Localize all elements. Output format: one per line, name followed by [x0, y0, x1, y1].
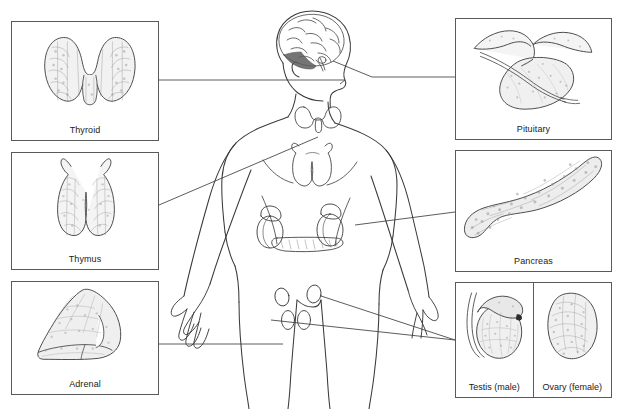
pituitary-gland-icon [456, 19, 611, 117]
panel-label-ovary: Ovary (female) [534, 382, 612, 393]
leg-right-outer [369, 304, 379, 409]
panel-thyroid[interactable]: Thyroid [11, 21, 159, 141]
waist-left [225, 232, 235, 266]
hand-left [171, 284, 210, 348]
hand-right [408, 290, 438, 338]
testis-icon [456, 283, 533, 365]
neck-right [328, 102, 335, 123]
human-body-outline-icon [165, 0, 455, 409]
ovaries-in-body [273, 284, 322, 307]
thyroid-gland-icon [12, 22, 158, 118]
abdomen-contour-left [262, 196, 277, 244]
brain-illustration [279, 14, 344, 71]
panel-label-testis: Testis (male) [456, 382, 533, 393]
panel-pancreas[interactable]: Pancreas [455, 150, 612, 272]
arm-right-outer [386, 150, 429, 297]
leg-left-outer [239, 302, 249, 409]
pancreas-gland-icon [456, 151, 611, 249]
adrenal-gland-icon [12, 282, 158, 372]
pancreas-gland-in-body [272, 237, 343, 251]
panel-pituitary[interactable]: Pituitary [455, 18, 612, 140]
thymus-gland-in-body [292, 143, 333, 186]
panel-adrenal[interactable]: Adrenal [11, 281, 159, 395]
panel-ovary[interactable]: Ovary (female) [534, 283, 612, 397]
torso-left [222, 117, 288, 232]
panel-label-adrenal: Adrenal [12, 379, 158, 389]
hip-left [235, 266, 239, 302]
ovary-icon [534, 283, 612, 365]
abdomen-contour-right [335, 198, 350, 246]
waist-right [383, 236, 393, 270]
torso-right [335, 123, 397, 236]
leg-right-inner [321, 300, 330, 409]
thymus-gland-icon [12, 153, 158, 247]
panel-label-pituitary: Pituitary [456, 124, 611, 134]
arm-right-inner [371, 176, 408, 290]
panel-gonads[interactable]: Testis (male) [455, 282, 612, 398]
jaw-line [283, 63, 323, 101]
panel-label-thymus: Thymus [12, 254, 158, 264]
adrenal-glands-in-body [257, 204, 343, 248]
leg-left-inner [288, 300, 297, 409]
arm-left-outer [184, 143, 236, 296]
arm-left-inner [210, 170, 251, 284]
panel-label-pancreas: Pancreas [456, 256, 611, 266]
thyroid-gland-in-body [295, 107, 341, 133]
panel-thymus[interactable]: Thymus [11, 152, 159, 270]
panel-testis[interactable]: Testis (male) [456, 283, 534, 397]
panel-label-thyroid: Thyroid [12, 125, 158, 135]
hip-right [379, 270, 383, 304]
endocrine-system-figure: Thyroid [0, 0, 623, 409]
chest-contour-left [263, 160, 293, 183]
